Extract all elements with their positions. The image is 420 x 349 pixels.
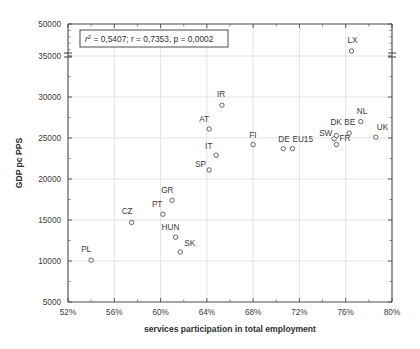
- data-point[interactable]: DE: [278, 135, 290, 151]
- data-point-marker[interactable]: [178, 250, 182, 254]
- data-point-marker[interactable]: [207, 127, 211, 131]
- data-point-label: CZ: [122, 207, 133, 216]
- data-point-label: DE: [278, 135, 290, 144]
- data-point-label: SK: [184, 239, 195, 248]
- data-point[interactable]: LX: [348, 36, 359, 53]
- data-point[interactable]: HUN: [162, 223, 180, 239]
- data-point-label: AT: [199, 115, 209, 124]
- chart-canvas: 52%56%60%64%68%72%76%80%5000100001500020…: [0, 0, 420, 349]
- data-point-label: LX: [348, 36, 359, 45]
- data-point-marker[interactable]: [207, 168, 211, 172]
- data-point-label: IT: [205, 142, 212, 151]
- x-tick-label: 72%: [291, 308, 307, 317]
- data-point[interactable]: GR: [161, 186, 174, 202]
- data-point-label: BE: [344, 118, 355, 127]
- y-tick-label: 5000: [43, 298, 62, 307]
- data-point[interactable]: PT: [152, 200, 165, 216]
- data-point[interactable]: PL: [81, 245, 93, 262]
- data-point-marker[interactable]: [334, 142, 338, 146]
- y-tick-label: 25000: [38, 134, 61, 143]
- data-point-marker[interactable]: [281, 146, 285, 150]
- data-point-label: IR: [217, 90, 225, 99]
- data-point-marker[interactable]: [290, 146, 294, 150]
- data-point-label: EU15: [292, 135, 313, 144]
- y-tick-label: 35000: [38, 52, 61, 61]
- x-tick-label: 52%: [60, 308, 76, 317]
- y-tick-label: 30000: [38, 93, 61, 102]
- data-point[interactable]: IR: [217, 90, 225, 107]
- x-tick-label: 76%: [338, 308, 354, 317]
- data-point-marker[interactable]: [347, 131, 351, 135]
- data-point-marker[interactable]: [170, 198, 174, 202]
- y-tick-label: 20000: [38, 175, 61, 184]
- data-point-marker[interactable]: [161, 212, 165, 216]
- data-point-marker[interactable]: [129, 220, 133, 224]
- stats-annotation-text: r2 = 0,5407; r = 0,7353, p = 0,0002: [85, 34, 214, 44]
- y-tick-label: 15000: [38, 216, 61, 225]
- data-point-marker[interactable]: [374, 135, 378, 139]
- data-point[interactable]: NL: [357, 107, 368, 124]
- y-axis-title: GDP pc PPS: [14, 137, 24, 188]
- x-tick-label: 80%: [384, 308, 400, 317]
- scatter-chart: 52%56%60%64%68%72%76%80%5000100001500020…: [0, 0, 420, 349]
- data-point-marker[interactable]: [251, 142, 255, 146]
- data-point-label: SP: [195, 160, 206, 169]
- data-point[interactable]: AT: [199, 115, 211, 131]
- data-point-marker[interactable]: [359, 119, 363, 123]
- data-point-marker[interactable]: [214, 153, 218, 157]
- y-tick-label: 10000: [38, 257, 61, 266]
- data-point[interactable]: SK: [178, 239, 196, 254]
- data-point-marker[interactable]: [334, 133, 338, 137]
- data-point-label: PT: [152, 200, 162, 209]
- data-point-marker[interactable]: [220, 103, 224, 107]
- data-point-marker[interactable]: [173, 235, 177, 239]
- y-tick-label: 50000: [38, 20, 61, 29]
- x-axis-title: services participation in total employme…: [144, 324, 316, 334]
- data-point[interactable]: EU15: [290, 135, 313, 151]
- x-tick-label: 68%: [245, 308, 261, 317]
- data-point-label: PL: [81, 245, 91, 254]
- data-point[interactable]: UK: [374, 123, 389, 139]
- data-point[interactable]: SP: [195, 160, 211, 172]
- data-point-label: DK: [330, 118, 342, 127]
- data-point[interactable]: FI: [249, 131, 256, 147]
- data-point-label: UK: [377, 123, 389, 132]
- x-tick-label: 56%: [106, 308, 122, 317]
- data-point-label: SW: [319, 129, 332, 138]
- data-point-marker[interactable]: [349, 49, 353, 53]
- data-point[interactable]: SW: [319, 129, 336, 141]
- data-point-label: GR: [161, 186, 173, 195]
- data-point-label: HUN: [162, 223, 180, 232]
- data-point-marker[interactable]: [89, 258, 93, 262]
- x-tick-label: 60%: [152, 308, 168, 317]
- data-point-label: FI: [249, 131, 256, 140]
- data-point[interactable]: CZ: [122, 207, 134, 224]
- data-point-label: NL: [357, 107, 368, 116]
- x-tick-label: 64%: [199, 308, 215, 317]
